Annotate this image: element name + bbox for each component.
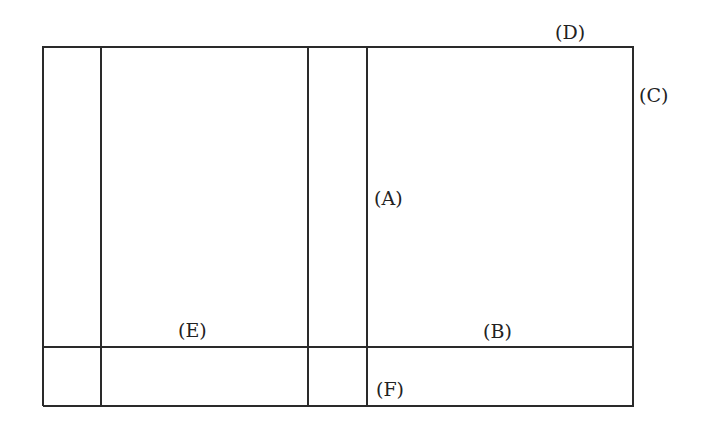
outer-right-edge [632,46,634,406]
label-b: (B) [483,322,512,341]
label-d: (D) [555,23,585,42]
vertical-divider-1 [100,46,102,406]
label-c: (C) [639,86,668,105]
label-f: (F) [376,380,404,399]
label-e: (E) [178,321,207,340]
vertical-divider-3 [366,46,368,406]
outer-left-edge [42,46,44,406]
label-a: (A) [374,189,403,208]
outer-top-edge [43,46,634,48]
horizontal-divider [43,346,634,348]
diagram-canvas: (A) (B) (C) (D) (E) (F) [0,0,710,432]
vertical-divider-2 [307,46,309,406]
outer-bottom-edge [43,405,634,407]
